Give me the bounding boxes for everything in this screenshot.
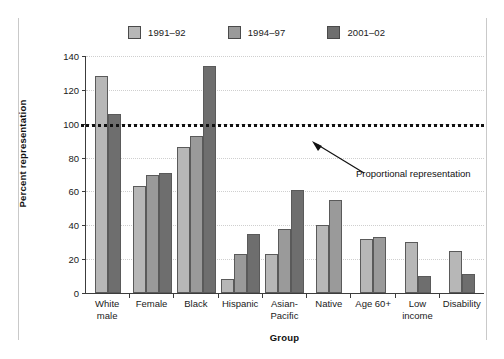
bar[interactable] xyxy=(265,254,278,293)
y-axis-tick-label: 80 xyxy=(68,152,79,163)
y-axis-tick-label: 140 xyxy=(63,51,79,62)
y-axis-tick-label: 40 xyxy=(68,220,79,231)
bar[interactable] xyxy=(159,173,172,293)
x-axis-tick-label-line: male xyxy=(85,310,129,322)
x-axis-tick-label-line: White xyxy=(85,298,129,310)
x-axis-group-separator xyxy=(306,293,307,298)
x-axis-tick-label: Asian-Pacific xyxy=(262,298,306,321)
bar[interactable] xyxy=(316,225,329,293)
bar[interactable] xyxy=(133,186,146,293)
bar[interactable] xyxy=(449,251,462,293)
y-axis-tick-label: 0 xyxy=(74,288,79,299)
x-axis-tick-label-line: Asian- xyxy=(262,298,306,310)
x-axis-tick-label-line: Hispanic xyxy=(218,298,262,310)
x-axis-tick-label-line: Disability xyxy=(440,298,484,310)
x-axis-group-separator xyxy=(129,293,130,298)
x-axis-tick-label: Age 60+ xyxy=(351,298,395,321)
x-axis-tick-label-line: Black xyxy=(174,298,218,310)
x-axis-tick-label-line: income xyxy=(395,310,439,322)
bar[interactable] xyxy=(108,114,121,293)
x-axis-group-separator xyxy=(173,293,174,298)
x-axis-tick-labels: WhitemaleFemaleBlackHispanicAsian-Pacifi… xyxy=(85,298,484,321)
x-axis-tick-label-line: Native xyxy=(307,298,351,310)
proportional-representation-label: Proportional representation xyxy=(356,168,471,179)
x-axis-group-separator xyxy=(218,293,219,298)
bar[interactable] xyxy=(462,274,475,293)
bar[interactable] xyxy=(95,76,108,293)
bar[interactable] xyxy=(221,279,234,293)
bar[interactable] xyxy=(418,276,431,293)
bar[interactable] xyxy=(190,136,203,293)
y-axis-tick-label: 60 xyxy=(68,186,79,197)
x-axis-tick-label: Disability xyxy=(440,298,484,321)
bar[interactable] xyxy=(146,175,159,294)
x-axis-tick-label-line: Low xyxy=(395,298,439,310)
bar-group xyxy=(174,56,218,293)
bar-group xyxy=(263,56,307,293)
x-axis-tick-label-line: Pacific xyxy=(262,310,306,322)
bar[interactable] xyxy=(278,229,291,293)
bar[interactable] xyxy=(291,190,304,293)
x-axis-tick-label: Lowincome xyxy=(395,298,439,321)
x-axis-group-separator xyxy=(350,293,351,298)
y-axis-tick-label: 20 xyxy=(68,254,79,265)
y-axis-tick-label: 120 xyxy=(63,84,79,95)
x-axis-tick-label: Hispanic xyxy=(218,298,262,321)
x-axis-group-separator xyxy=(439,293,440,298)
y-axis-tick-mark xyxy=(82,293,86,294)
bar-group xyxy=(130,56,174,293)
bar[interactable] xyxy=(203,66,216,293)
x-axis-group-separator xyxy=(395,293,396,298)
x-axis-title: Group xyxy=(85,332,484,343)
y-axis-title: Percent representation xyxy=(17,69,28,239)
bar[interactable] xyxy=(405,242,418,293)
bar[interactable] xyxy=(234,254,247,293)
x-axis-group-separator xyxy=(262,293,263,298)
chart-figure: 1991–921994–972001–02 020406080100120140… xyxy=(0,0,504,359)
bar[interactable] xyxy=(329,200,342,293)
x-axis-tick-label-line: Age 60+ xyxy=(351,298,395,310)
proportional-representation-line xyxy=(81,124,484,127)
x-axis-tick-label: Whitemale xyxy=(85,298,129,321)
x-axis-tick-label-line: Female xyxy=(129,298,173,310)
x-axis-tick-label: Female xyxy=(129,298,173,321)
bar-group xyxy=(219,56,263,293)
bar[interactable] xyxy=(247,234,260,293)
y-axis-tick-label: 100 xyxy=(63,118,79,129)
x-axis-tick-label: Black xyxy=(174,298,218,321)
x-axis-tick-label: Native xyxy=(307,298,351,321)
bar[interactable] xyxy=(177,147,190,293)
bar[interactable] xyxy=(360,239,373,293)
bar-group xyxy=(86,56,130,293)
bar[interactable] xyxy=(373,237,386,293)
